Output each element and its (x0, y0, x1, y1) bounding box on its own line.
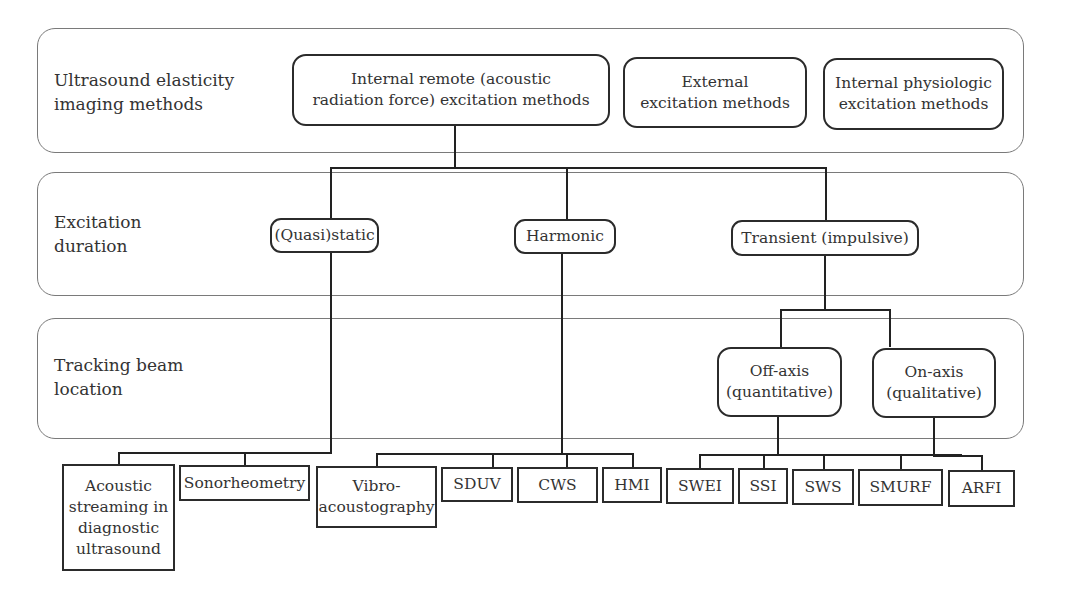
node-on-axis: On-axis (qualitative) (872, 348, 996, 418)
connector-line (376, 453, 634, 455)
leaf-ssi: SSI (738, 468, 788, 504)
connector-line (454, 126, 456, 169)
connector-line (824, 256, 826, 310)
connector-line (118, 452, 332, 454)
node-internal-physiologic: Internal physiologic excitation methods (823, 58, 1004, 130)
connector-line (699, 454, 962, 456)
connector-line (763, 454, 765, 469)
node-internal-remote-arf: Internal remote (acoustic radiation forc… (292, 54, 610, 126)
leaf-acoustic-streaming: Acoustic streaming in diagnostic ultraso… (62, 464, 175, 571)
connector-line (561, 254, 563, 454)
leaf-swei: SWEI (666, 468, 734, 504)
band-label-tracking-beam-location: Tracking beam location (54, 353, 183, 401)
connector-line (330, 252, 332, 454)
connector-line (900, 454, 902, 470)
connector-line (780, 309, 890, 311)
connector-line (777, 417, 779, 455)
leaf-hmi: HMI (602, 467, 662, 503)
connector-line (330, 167, 827, 169)
leaf-cws: CWS (517, 467, 598, 503)
node-quasistatic: (Quasi)static (270, 218, 379, 253)
connector-line (780, 309, 782, 347)
node-transient-impulsive: Transient (impulsive) (731, 220, 919, 256)
connector-line (492, 453, 494, 468)
connector-line (933, 418, 935, 456)
leaf-sws: SWS (792, 469, 854, 505)
connector-line (823, 454, 825, 469)
connector-line (825, 167, 827, 220)
leaf-vibro-acoustography: Vibro- acoustography (316, 466, 437, 528)
connector-line (566, 453, 568, 468)
connector-line (933, 455, 983, 457)
node-harmonic: Harmonic (514, 219, 616, 254)
node-off-axis: Off-axis (quantitative) (717, 347, 842, 417)
connector-line (376, 453, 378, 467)
node-external-excitation: External excitation methods (623, 57, 807, 128)
connector-line (566, 167, 568, 219)
leaf-smurf: SMURF (858, 469, 943, 506)
connector-line (889, 309, 891, 347)
connector-line (699, 454, 701, 469)
leaf-sonorheometry: Sonorheometry (179, 465, 310, 501)
leaf-sduv: SDUV (441, 467, 513, 502)
band-label-excitation-duration: Excitation duration (54, 210, 141, 258)
connector-line (330, 167, 332, 219)
leaf-arfi: ARFI (948, 470, 1015, 507)
connector-line (981, 455, 983, 470)
connector-line (632, 453, 634, 468)
band-label-methods: Ultrasound elasticity imaging methods (54, 68, 234, 116)
